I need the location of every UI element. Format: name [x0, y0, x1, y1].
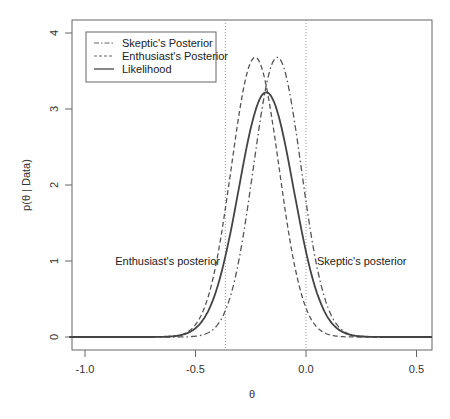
y-axis-label: p(θ | Data) — [20, 159, 32, 211]
x-tick-label: -1.0 — [76, 363, 95, 375]
chart: 0 1 2 3 4 p(θ | Data) -1.0 -0.5 0.0 0.5 … — [0, 0, 450, 419]
annotation-skeptic: Skeptic's posterior — [317, 255, 407, 267]
legend-label: Likelihood — [122, 63, 172, 75]
annotation-enthusiast: Enthusiast's posterior — [115, 255, 220, 267]
x-tick-label: -0.5 — [186, 363, 205, 375]
y-tick-label: 4 — [48, 30, 60, 36]
y-tick-labels: 0 1 2 3 4 — [48, 30, 60, 340]
x-tick-label: 0.0 — [298, 363, 313, 375]
curve-likelihood — [70, 92, 433, 337]
y-tick-label: 1 — [48, 258, 60, 264]
legend-label: Enthusiast's Posterior — [122, 50, 228, 62]
x-tick-labels: -1.0 -0.5 0.0 0.5 — [76, 363, 425, 375]
legend-label: Skeptic's Posterior — [122, 37, 213, 49]
x-axis-label: θ — [249, 388, 255, 400]
y-tick-label: 2 — [48, 182, 60, 188]
x-tick-label: 0.5 — [409, 363, 424, 375]
x-axis — [85, 350, 417, 357]
curve-skeptic-posterior — [70, 57, 433, 337]
y-tick-label: 3 — [48, 106, 60, 112]
y-tick-label: 0 — [48, 334, 60, 340]
legend: Skeptic's Posterior Enthusiast's Posteri… — [86, 32, 228, 82]
y-axis — [65, 33, 72, 337]
curve-enthusiast-posterior — [70, 57, 433, 337]
